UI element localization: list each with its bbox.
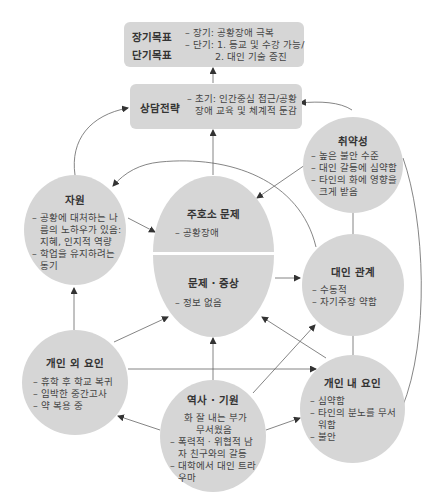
strategy-box: 상담전략 – 초기: 인간중심 접근/공황 장애 교육 및 체계적 둔감 xyxy=(130,84,302,129)
strategy-item: – 초기: 인간중심 접근/공황 xyxy=(187,93,297,105)
goal-item: 2. 대인 기술 증진 xyxy=(185,51,304,63)
goal-item: – 단기: 1. 등교 및 수강 가능/ xyxy=(185,39,304,51)
history-item: – 대학에서 대인 트라 xyxy=(170,460,256,472)
goals-box: 장기목표 단기목표 – 장기: 공황장애 극복 – 단기: 1. 등교 및 수강… xyxy=(124,22,304,67)
resources-item: 지혜, 인지적 역량 xyxy=(32,236,121,248)
resources-node: 자원 – 공황에 대처하는 나 름의 노하우가 있음: 지혜, 인지적 역량 –… xyxy=(24,175,126,285)
internal-factors-item: – 심약함 xyxy=(310,395,396,407)
resources-title: 자원 xyxy=(24,192,126,207)
vulnerability-item: – 타인의 화에 영향을 xyxy=(311,174,397,186)
chief-complaint-title: 주호소 문제 xyxy=(153,206,274,221)
history-item: 무서웠음 xyxy=(170,424,256,436)
external-factors-item: – 임박한 중간고사 xyxy=(33,388,113,400)
vulnerability-node: 취약성 – 높은 불안 수준 – 대인 갈등에 심약함 – 타인의 화에 영향을… xyxy=(303,117,403,213)
vulnerability-item: 크게 받음 xyxy=(311,186,397,198)
strategy-item: 장애 교육 및 체계적 둔감 xyxy=(187,105,297,117)
interpersonal-item: – 수동적 xyxy=(312,284,377,296)
interpersonal-title: 대인 관계 xyxy=(302,264,404,279)
interpersonal-item: – 자기주장 약함 xyxy=(312,296,377,308)
chief-complaint-item: – 공황장애 xyxy=(175,227,219,239)
strategy-title: 상담전략 xyxy=(140,100,180,115)
history-node: 역사 · 기원 화 잘 내는 부가 무서웠음 – 폭력적 · 위협적 남 자 친… xyxy=(160,380,266,492)
external-factors-node: 개인 외 요인 – 휴학 후 학교 복귀 – 임박한 중간고사 – 약 복용 중 xyxy=(22,330,128,435)
internal-factors-node: 개인 내 요인 – 심약함 – 타인의 분노를 무서 워함 – 불안 xyxy=(300,355,405,463)
vulnerability-item: – 높은 불안 수준 xyxy=(311,150,397,162)
external-factors-title: 개인 외 요인 xyxy=(22,355,128,370)
resources-item: 동기 xyxy=(32,260,121,272)
history-item: 우마 xyxy=(170,472,256,484)
internal-factors-title: 개인 내 요인 xyxy=(300,375,405,390)
vulnerability-item: – 대인 갈등에 심약함 xyxy=(311,162,397,174)
resources-item: – 공황에 대처하는 나 xyxy=(32,212,121,224)
problem-symptom-title: 문제 · 증상 xyxy=(153,275,274,290)
interpersonal-node: 대인 관계 – 수동적 – 자기주장 약함 xyxy=(302,234,404,336)
history-item: 자 친구와의 갈등 xyxy=(170,448,256,460)
external-factors-item: – 휴학 후 학교 복귀 xyxy=(33,376,113,388)
resources-item: – 학업을 유지하려는 xyxy=(32,248,121,260)
history-item: – 폭력적 · 위협적 남 xyxy=(170,436,256,448)
long-term-goal-title: 장기목표 xyxy=(132,29,172,44)
internal-factors-item: – 타인의 분노를 무서 xyxy=(310,407,396,419)
goal-item: – 장기: 공황장애 극복 xyxy=(185,27,304,39)
vulnerability-title: 취약성 xyxy=(303,133,403,148)
resources-item: 름의 노하우가 있음: xyxy=(32,224,121,236)
history-item: 화 잘 내는 부가 xyxy=(170,412,256,424)
problem-symptom-item: – 정보 없음 xyxy=(175,297,222,309)
internal-factors-item: – 불안 xyxy=(310,431,396,443)
internal-factors-item: 워함 xyxy=(310,419,396,431)
history-title: 역사 · 기원 xyxy=(160,392,266,407)
short-term-goal-title: 단기목표 xyxy=(132,47,172,62)
external-factors-item: – 약 복용 중 xyxy=(33,400,113,412)
